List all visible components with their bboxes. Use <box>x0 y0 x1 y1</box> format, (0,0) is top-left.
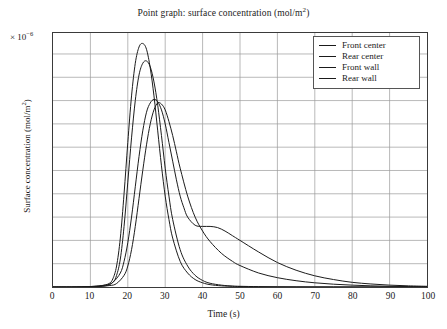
x-axis-title: Time (s) <box>0 309 447 319</box>
x-tick-label: 50 <box>235 291 245 301</box>
legend-line-icon <box>319 56 336 57</box>
y-axis-title: Surface concentration (mol/m2) <box>20 56 32 256</box>
series-line <box>53 99 427 287</box>
legend-label: Rear wall <box>342 73 377 84</box>
series-line <box>53 61 427 287</box>
x-tick-label: 20 <box>122 291 132 301</box>
legend-line-icon <box>319 45 336 46</box>
legend-label: Front center <box>342 40 386 51</box>
chart-container: Point graph: surface concentration (mol/… <box>0 0 447 329</box>
legend-label: Rear center <box>342 51 383 62</box>
x-tick-label: 90 <box>386 291 396 301</box>
x-tick-label: 40 <box>198 291 208 301</box>
x-tick-label: 80 <box>348 291 358 301</box>
x-tick-label: 30 <box>160 291 170 301</box>
legend-item: Rear wall <box>319 73 414 84</box>
legend-item: Front wall <box>319 62 414 73</box>
legend-label: Front wall <box>342 62 379 73</box>
legend-item: Front center <box>319 40 414 51</box>
legend-line-icon <box>319 78 336 79</box>
x-tick-label: 100 <box>421 291 435 301</box>
x-tick-label: 60 <box>273 291 283 301</box>
y-axis-multiplier: × 10−6 <box>10 30 33 42</box>
x-tick-label: 0 <box>50 291 55 301</box>
series-line <box>53 103 427 287</box>
chart-legend: Front centerRear centerFront wallRear wa… <box>313 36 420 89</box>
legend-line-icon <box>319 67 336 68</box>
legend-item: Rear center <box>319 51 414 62</box>
chart-title: Point graph: surface concentration (mol/… <box>0 6 447 18</box>
x-tick-label: 70 <box>310 291 320 301</box>
x-tick-label: 10 <box>85 291 95 301</box>
